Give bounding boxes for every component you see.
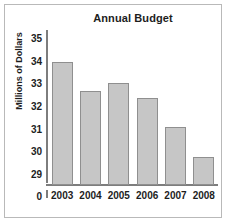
bar [193,157,214,185]
y-axis-tick-label: 31 [20,125,42,135]
y-axis-tick-label: 29 [20,170,42,180]
y-axis-origin-label: 0 [18,191,42,202]
bar [52,62,73,185]
x-axis-tick-label: 2007 [161,190,189,201]
y-axis-tick-label: 30 [20,147,42,157]
y-axis-tick-label: 35 [20,34,42,44]
x-axis-tick-label: 2003 [48,190,76,201]
y-axis-tick-labels: 35343332313029 [18,0,42,222]
chart-title: Annual Budget [46,12,220,24]
bars-layer [48,30,218,185]
bar [80,91,101,185]
x-axis-tick-label: 2004 [76,190,104,201]
y-axis-tick-label: 34 [20,57,42,67]
bar [165,127,186,185]
x-axis-tick-label: 2005 [105,190,133,201]
bar [137,98,158,185]
y-axis-tick-label: 33 [20,79,42,89]
bar [108,83,129,185]
annual-budget-bar-chart: Annual Budget Millions of Dollars 353433… [0,0,226,222]
y-axis-tick-label: 32 [20,102,42,112]
x-axis-tick-label: 2008 [190,190,218,201]
x-axis-tick-label: 2006 [133,190,161,201]
